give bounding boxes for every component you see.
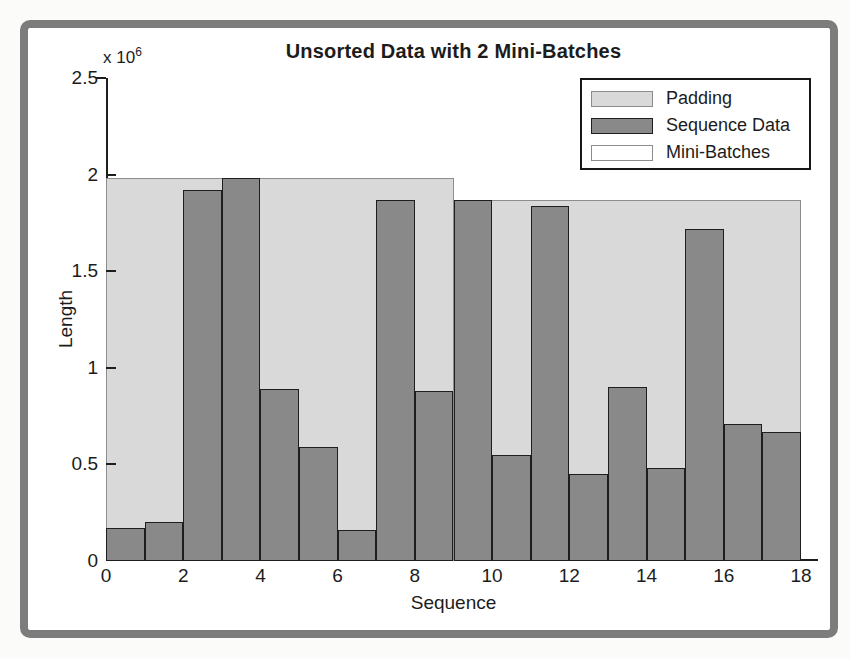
y-tick-label: 1.5 [28, 260, 98, 282]
sequence-bar [299, 447, 338, 561]
sequence-bar [608, 387, 647, 561]
x-axis-end-segment [800, 559, 818, 561]
x-tick-label: 14 [636, 565, 657, 587]
y-tick-mark [106, 463, 116, 465]
sequence-bar [647, 468, 686, 561]
x-tick-label: 8 [410, 565, 421, 587]
y-tick-labels: 00.511.522.5 [28, 78, 98, 561]
y-tick-mark [96, 77, 106, 79]
y-tick-label: 1 [28, 356, 98, 378]
legend: Padding Sequence Data Mini-Batches [580, 78, 811, 170]
y-axis-multiplier: x 106 [103, 45, 142, 68]
sequence-data-swatch-icon [591, 118, 653, 134]
y-tick-label: 2.5 [28, 67, 98, 89]
sequence-bar [415, 391, 454, 561]
sequence-bar [338, 530, 377, 561]
x-tick-label: 2 [178, 565, 189, 587]
sequence-bar [106, 528, 145, 561]
y-tick-label: 0.5 [28, 453, 98, 475]
legend-item-sequence-data: Sequence Data [582, 112, 809, 139]
x-tick-labels: 024681012141618 [106, 565, 801, 589]
legend-label: Padding [666, 88, 732, 109]
y-tick-mark [106, 270, 116, 272]
chart-title: Unsorted Data with 2 Mini-Batches [106, 40, 801, 63]
sequence-bar [454, 200, 493, 561]
sequence-bar [762, 432, 801, 561]
x-tick-label: 6 [332, 565, 343, 587]
legend-item-mini-batches: Mini-Batches [582, 139, 809, 166]
x-axis-label: Sequence [106, 592, 801, 614]
x-tick-label: 16 [713, 565, 734, 587]
x-tick-label: 12 [559, 565, 580, 587]
legend-label: Mini-Batches [666, 142, 770, 163]
legend-label: Sequence Data [666, 115, 790, 136]
x-tick-label: 4 [255, 565, 266, 587]
y-tick-label: 2 [28, 163, 98, 185]
padding-swatch-icon [591, 91, 653, 107]
sequence-bar [724, 424, 763, 561]
sequence-bar [183, 190, 222, 561]
multiplier-base: x 10 [103, 48, 135, 67]
y-tick-label: 0 [28, 550, 98, 572]
sequence-bar [260, 389, 299, 561]
sequence-bar [145, 522, 184, 561]
sequence-bar [492, 455, 531, 561]
y-tick-mark [106, 367, 116, 369]
sequence-bar [222, 178, 261, 561]
sequence-bar [569, 474, 608, 561]
x-tick-label: 0 [101, 565, 112, 587]
multiplier-exponent: 6 [135, 45, 142, 59]
sequence-bar [376, 200, 415, 561]
x-tick-label: 10 [482, 565, 503, 587]
x-tick-label: 18 [790, 565, 811, 587]
mini-batches-swatch-icon [591, 145, 653, 161]
y-tick-mark [106, 174, 116, 176]
sequence-bar [685, 229, 724, 561]
legend-item-padding: Padding [582, 85, 809, 112]
sequence-bar [531, 206, 570, 561]
